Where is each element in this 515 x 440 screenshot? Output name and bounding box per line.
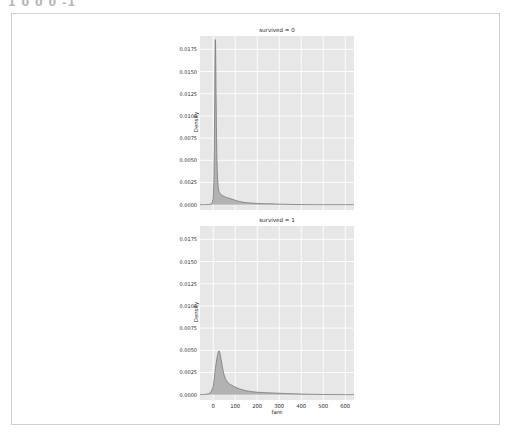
clipped-header-text: 1 0 0 0 -1 xyxy=(8,0,76,9)
y-axis-tick-label: 0.0150 xyxy=(180,69,198,75)
x-axis-tick-label: 0 xyxy=(212,403,215,409)
plot-area xyxy=(200,226,354,400)
x-axis-tick-label: 300 xyxy=(274,403,284,409)
y-axis-tick-label: 0.0175 xyxy=(180,236,198,242)
y-axis-tick-label: 0.0000 xyxy=(180,392,198,398)
x-axis-tick-label: 100 xyxy=(230,403,240,409)
facet-title: survived = 0 xyxy=(200,27,354,33)
y-axis-tick-label: 0.0025 xyxy=(180,179,198,185)
plot-area xyxy=(200,36,354,210)
x-axis-tick-label: 500 xyxy=(318,403,328,409)
y-axis-label: Density xyxy=(193,92,199,152)
y-axis-tick-label: 0.0050 xyxy=(180,347,198,353)
y-axis-tick-label: 0.0175 xyxy=(180,46,198,52)
y-axis-tick-label: 0.0000 xyxy=(180,202,198,208)
figure-canvas: survived = 00.00000.00250.00500.00750.01… xyxy=(12,14,501,426)
x-axis-tick-label: 400 xyxy=(296,403,306,409)
y-axis-tick-label: 0.0050 xyxy=(180,157,198,163)
x-axis-tick-label: 200 xyxy=(252,403,262,409)
facet-panel-0: survived = 00.00000.00250.00500.00750.01… xyxy=(200,36,354,210)
y-axis-tick-label: 0.0025 xyxy=(180,369,198,375)
x-axis-tick-label: 600 xyxy=(340,403,350,409)
facet-title: survived = 1 xyxy=(200,217,354,223)
facet-panel-1: survived = 10.00000.00250.00500.00750.01… xyxy=(200,226,354,400)
x-axis-label: fare xyxy=(200,409,354,415)
y-axis-tick-label: 0.0150 xyxy=(180,259,198,265)
y-axis-label: Density xyxy=(193,282,199,342)
document-page: survived = 00.00000.00250.00500.00750.01… xyxy=(11,13,500,425)
